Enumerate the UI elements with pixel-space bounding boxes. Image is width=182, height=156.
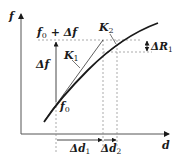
delta-d1-label: Δd1 <box>69 142 90 156</box>
delta-d2-label: Δd2 <box>100 142 122 156</box>
k2-label: K2 <box>98 21 114 35</box>
guide-lines <box>38 40 152 152</box>
delta-r1-label: ΔR1 <box>150 40 173 54</box>
x-axis-label: d <box>162 139 170 152</box>
k2-tangent-line <box>104 40 124 55</box>
f0-plus-df-label: f0 + Δf <box>36 26 79 40</box>
y-axis-label: f <box>8 10 16 23</box>
sensor-curve-diagram: f d f0 + Δf Δf f0 K1 K2 ΔR1 Δd1 Δd2 <box>0 0 182 156</box>
k1-tangent-line <box>45 40 103 120</box>
k2-leader <box>110 34 116 44</box>
f0-label: f0 <box>59 100 70 114</box>
k1-label: K1 <box>63 49 79 63</box>
delta-f-label: Δf <box>35 58 52 71</box>
